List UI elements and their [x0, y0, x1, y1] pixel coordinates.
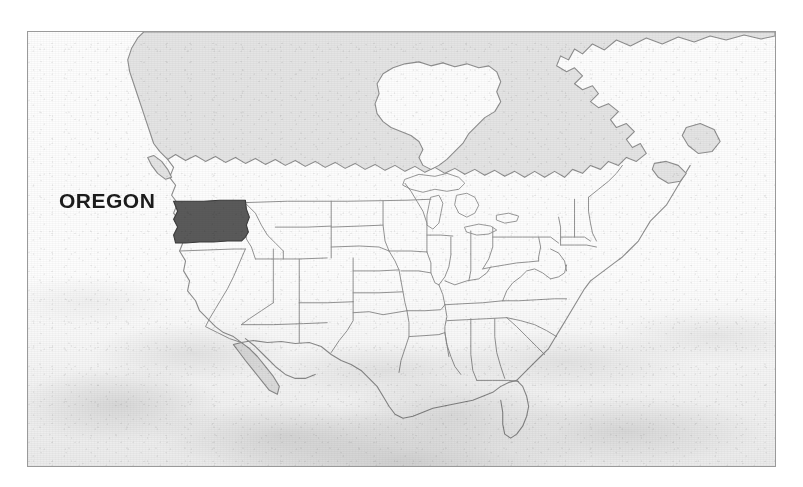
- map-page: OREGON: [0, 0, 803, 487]
- map-frame: OREGON: [27, 31, 776, 467]
- oregon-label: OREGON: [59, 189, 155, 213]
- north-america-map-svg: [28, 32, 775, 466]
- oregon-highlight[interactable]: [174, 200, 250, 243]
- map-graphic: [28, 32, 775, 466]
